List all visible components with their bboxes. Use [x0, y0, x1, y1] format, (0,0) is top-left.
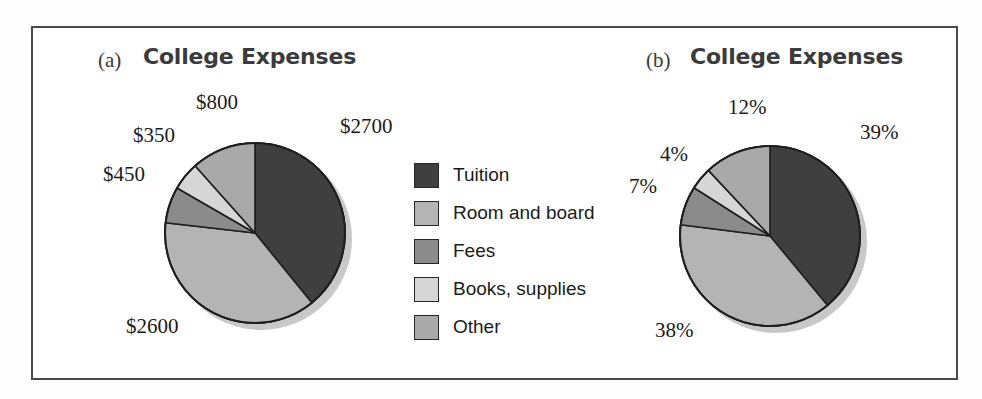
legend-item: Books, supplies: [414, 270, 595, 308]
legend-swatch: [414, 201, 439, 226]
pie-chart-b: [679, 145, 861, 327]
pie-value-label: $450: [103, 162, 145, 187]
legend-item: Tuition: [414, 156, 595, 194]
panel-b-tag: (b): [646, 48, 671, 73]
legend-swatch: [414, 277, 439, 302]
pie-value-label: $350: [133, 123, 175, 148]
legend-swatch: [414, 315, 439, 340]
pie-value-label: 39%: [860, 120, 899, 145]
pie-value-label: $800: [196, 90, 238, 115]
legend: TuitionRoom and boardFeesBooks, supplies…: [414, 156, 595, 346]
legend-swatch: [414, 163, 439, 188]
pie-chart-a: [164, 142, 346, 324]
legend-item: Other: [414, 308, 595, 346]
figure-root: (a) College Expenses $800$2700$350$450$2…: [0, 0, 982, 399]
panel-a-tag: (a): [98, 48, 121, 73]
legend-label: Other: [453, 316, 501, 338]
pie-value-label: 38%: [655, 318, 694, 343]
legend-label: Fees: [453, 240, 495, 262]
pie-value-label: 7%: [629, 174, 657, 199]
pie-b-svg: [679, 145, 861, 327]
legend-item: Room and board: [414, 194, 595, 232]
legend-swatch: [414, 239, 439, 264]
legend-label: Room and board: [453, 202, 595, 224]
pie-value-label: $2700: [340, 114, 393, 139]
pie-a-svg: [164, 142, 346, 324]
pie-value-label: 4%: [660, 142, 688, 167]
panel-b-title: College Expenses: [690, 44, 903, 69]
legend-label: Books, supplies: [453, 278, 586, 300]
pie-value-label: $2600: [126, 314, 179, 339]
pie-value-label: 12%: [728, 95, 767, 120]
legend-item: Fees: [414, 232, 595, 270]
panel-a-title: College Expenses: [143, 44, 356, 69]
legend-label: Tuition: [453, 164, 509, 186]
